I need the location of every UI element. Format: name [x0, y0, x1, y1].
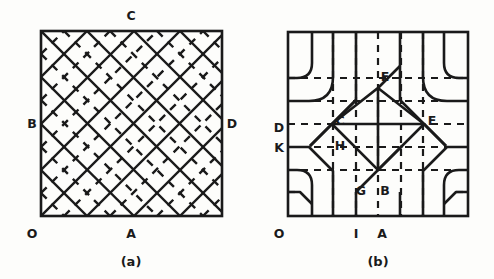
figure-root: C B D O A (a): [0, 0, 494, 279]
label-a-D: D: [227, 116, 237, 131]
contour-band-bottom-right: [400, 147, 468, 216]
contour-band-top-left: [288, 32, 356, 146]
label-a-O: O: [27, 226, 38, 241]
panel-a-lattice: [41, 31, 222, 216]
label-a-A: A: [126, 226, 136, 241]
label-b-G: G: [356, 183, 366, 198]
label-b-H: H: [335, 138, 345, 153]
label-b-E: E: [381, 69, 390, 84]
label-b-D: D: [274, 120, 284, 135]
contour-band-top-right: [400, 32, 468, 146]
label-b-K: K: [274, 140, 285, 155]
label-b-F: F: [428, 113, 437, 128]
label-a-B: B: [27, 116, 37, 131]
panel-a: C B D O A (a): [27, 8, 238, 269]
label-b-C: C: [335, 113, 344, 128]
label-b-I: I: [354, 226, 359, 241]
label-b-A: A: [377, 226, 387, 241]
label-b-O: O: [274, 226, 285, 241]
panel-b: E C F D K H G B O I A (b): [274, 32, 468, 269]
caption-a: (a): [121, 254, 142, 269]
label-b-B: B: [380, 183, 390, 198]
contour-band-bottom-left: [288, 147, 356, 216]
panel-b-contours: [288, 32, 468, 216]
caption-b: (b): [367, 254, 388, 269]
label-a-C: C: [126, 8, 135, 23]
